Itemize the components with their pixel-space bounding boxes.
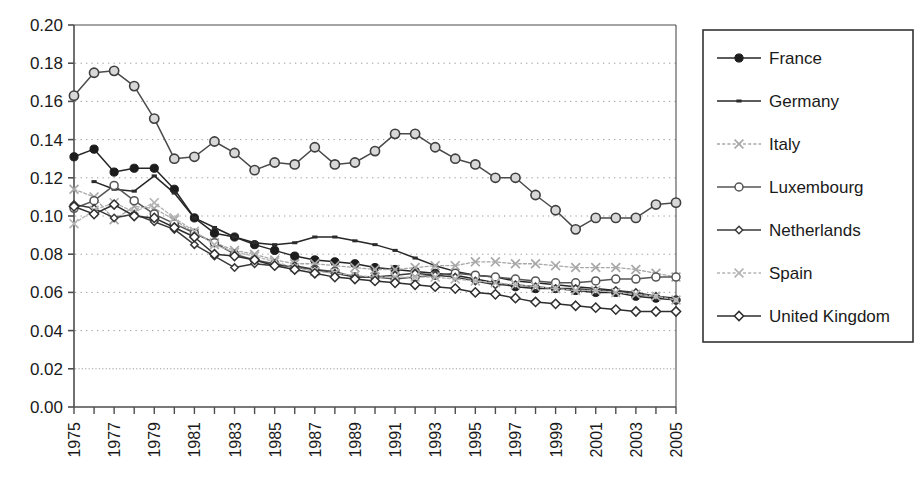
data-point <box>110 66 119 75</box>
data-point <box>152 174 157 177</box>
data-point <box>511 294 520 303</box>
x-tick-label: 1975 <box>66 422 83 458</box>
data-point <box>90 197 98 205</box>
data-point <box>250 166 259 175</box>
data-point <box>672 273 680 281</box>
data-point <box>272 243 277 246</box>
data-point <box>591 303 600 312</box>
x-tick-label: 1991 <box>387 422 404 458</box>
data-point <box>671 198 680 207</box>
data-point <box>192 216 197 219</box>
data-point <box>631 307 640 316</box>
data-point <box>271 246 279 254</box>
data-point <box>350 158 359 167</box>
data-point <box>110 181 118 189</box>
data-point <box>89 209 98 218</box>
legend-label: Luxembourg <box>769 178 864 197</box>
legend-label: Spain <box>769 264 812 283</box>
data-point <box>110 168 118 176</box>
data-point <box>130 197 138 205</box>
data-point <box>390 129 399 138</box>
data-point <box>130 82 139 91</box>
data-point <box>736 100 741 103</box>
data-point <box>210 137 219 146</box>
x-tick-label: 1987 <box>307 422 324 458</box>
data-point <box>611 305 620 314</box>
data-point <box>330 160 339 169</box>
data-point <box>632 275 640 283</box>
data-point <box>230 148 239 157</box>
y-tick-label: 0.14 <box>30 131 63 150</box>
data-point <box>310 143 319 152</box>
data-point <box>651 200 660 209</box>
x-tick-label: 1983 <box>227 422 244 458</box>
y-tick-label: 0.00 <box>30 398 63 417</box>
data-point <box>551 206 560 215</box>
data-point <box>531 190 540 199</box>
data-point <box>471 288 480 297</box>
data-point <box>290 160 299 169</box>
data-point <box>451 284 460 293</box>
data-point <box>612 275 620 283</box>
data-point <box>671 307 680 316</box>
legend-label: Netherlands <box>769 221 861 240</box>
y-tick-label: 0.08 <box>30 245 63 264</box>
data-point <box>150 114 159 123</box>
data-point <box>231 264 238 271</box>
legend: FranceGermanyItalyLuxembourgNetherlandsS… <box>703 30 913 342</box>
chart-page: 0.200.180.160.140.120.100.080.060.040.02… <box>0 0 921 490</box>
data-point <box>190 152 199 161</box>
data-point <box>631 213 640 222</box>
data-point <box>132 190 137 193</box>
data-point <box>91 180 96 183</box>
data-point <box>332 236 337 239</box>
y-tick-label: 0.18 <box>30 54 63 73</box>
data-point <box>172 192 177 195</box>
data-point <box>431 143 440 152</box>
data-point <box>735 183 743 191</box>
legend-label: France <box>769 49 822 68</box>
y-tick-label: 0.12 <box>30 169 63 188</box>
y-tick-label: 0.20 <box>30 16 63 35</box>
x-tick-label: 1985 <box>267 422 284 458</box>
data-point <box>212 226 217 229</box>
data-point <box>735 54 743 62</box>
legend-label: Italy <box>769 135 801 154</box>
x-tick-label: 1995 <box>467 422 484 458</box>
data-point <box>413 257 418 260</box>
data-point <box>130 164 138 172</box>
data-point <box>451 154 460 163</box>
series-united-kingdom-upper <box>69 66 680 234</box>
gridlines <box>75 63 676 369</box>
series-line <box>74 205 676 312</box>
y-tick-label: 0.02 <box>30 360 63 379</box>
data-point <box>210 229 218 237</box>
data-point <box>591 213 600 222</box>
data-point <box>150 164 158 172</box>
data-point <box>531 297 540 306</box>
data-point <box>89 68 98 77</box>
data-point <box>110 214 117 221</box>
data-point <box>431 282 440 291</box>
x-tick-label: 2001 <box>588 422 605 458</box>
x-tick-label: 1993 <box>427 422 444 458</box>
y-tick-label: 0.16 <box>30 92 63 111</box>
data-point <box>571 301 580 310</box>
line-chart: 0.200.180.160.140.120.100.080.060.040.02… <box>0 0 921 490</box>
data-point <box>611 213 620 222</box>
data-point <box>312 236 317 239</box>
data-point <box>232 236 237 239</box>
x-tick-label: 1981 <box>186 422 203 458</box>
y-tick-label: 0.06 <box>30 283 63 302</box>
x-tick-label: 1977 <box>106 422 123 458</box>
x-tick-label: 1999 <box>548 422 565 458</box>
data-point <box>270 158 279 167</box>
legend-label: Germany <box>769 92 839 111</box>
data-point <box>511 173 520 182</box>
data-point <box>491 290 500 299</box>
x-axis-ticks: 1975197719791981198319851987198919911993… <box>66 407 685 458</box>
legend-label: United Kingdom <box>769 307 890 326</box>
y-tick-label: 0.04 <box>30 322 63 341</box>
axes <box>74 25 676 407</box>
data-point <box>292 241 297 244</box>
